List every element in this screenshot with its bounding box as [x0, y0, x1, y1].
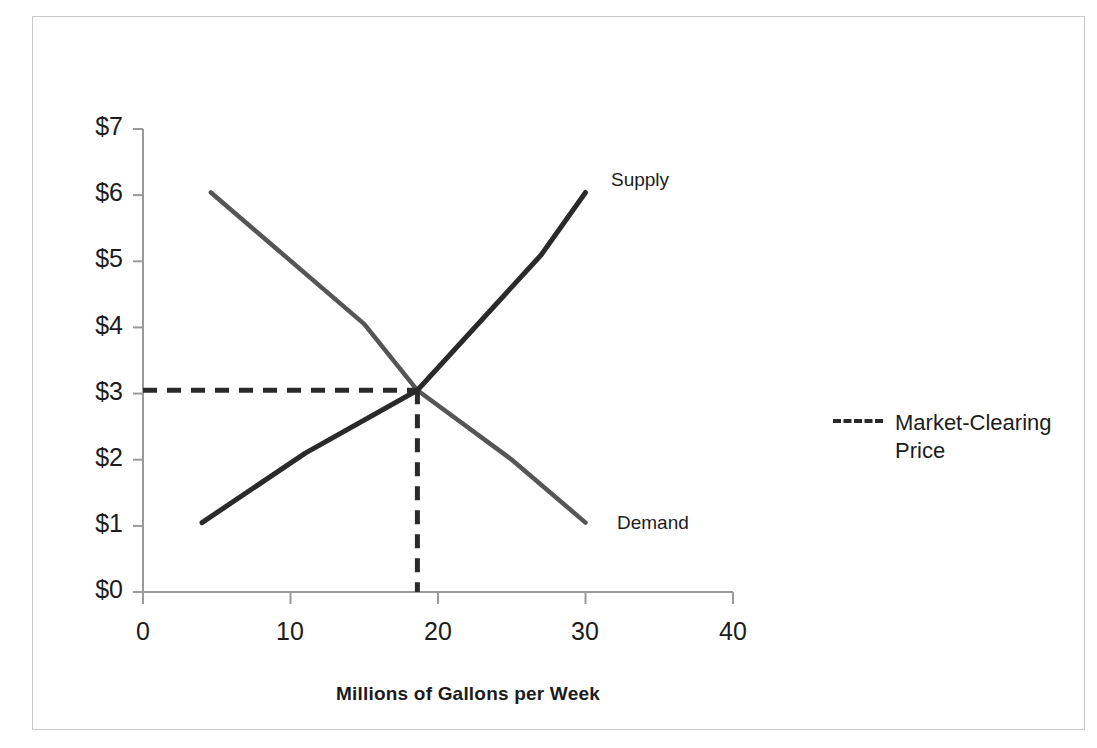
y-tick-label-3: $3 [53, 377, 123, 406]
y-tick-label-1: $1 [53, 509, 123, 538]
x-axis-ticks [143, 592, 733, 604]
x-axis-title: Millions of Gallons per Week [173, 683, 763, 705]
supply-curve-label: Supply [611, 169, 669, 191]
y-tick-label-4: $4 [53, 311, 123, 340]
demand-curve [211, 193, 586, 523]
chart-frame: $7 $6 $5 $4 $3 $2 $1 $0 0 10 20 30 40 Pr… [32, 16, 1085, 730]
y-tick-label-7: $7 [53, 112, 123, 141]
x-tick-label-0: 0 [108, 617, 178, 646]
legend-label-line-2: Price [895, 437, 1095, 465]
legend: Market-Clearing Price [833, 409, 1095, 464]
y-tick-label-0: $0 [53, 575, 123, 604]
chart-page: $7 $6 $5 $4 $3 $2 $1 $0 0 10 20 30 40 Pr… [0, 0, 1097, 748]
y-tick-label-2: $2 [53, 443, 123, 472]
legend-dashed-line-swatch [833, 419, 883, 423]
legend-label: Market-Clearing Price [895, 409, 1095, 464]
legend-label-line-1: Market-Clearing [895, 409, 1095, 437]
x-tick-label-40: 40 [698, 617, 768, 646]
y-tick-label-6: $6 [53, 178, 123, 207]
y-axis-ticks [133, 129, 143, 592]
x-tick-label-10: 10 [255, 617, 325, 646]
demand-curve-label: Demand [617, 512, 689, 534]
y-tick-label-5: $5 [53, 244, 123, 273]
x-tick-label-30: 30 [550, 617, 620, 646]
x-tick-label-20: 20 [403, 617, 473, 646]
